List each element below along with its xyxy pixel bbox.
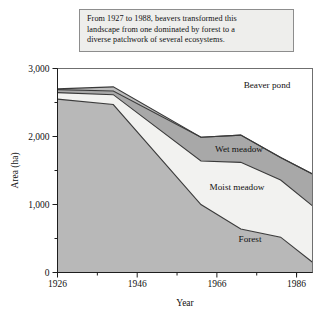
- y-tick-label-0: 0: [45, 268, 50, 278]
- x-tick-label-1986: 1986: [287, 279, 306, 289]
- y-tick-label-2000: 2,000: [28, 132, 50, 142]
- y-tick-labels: 01,0002,0003,000: [28, 64, 50, 278]
- band-label-forest: Forest: [239, 234, 262, 244]
- x-axis-title: Year: [176, 298, 194, 308]
- band-label-beaver-pond: Beaver pond: [244, 80, 291, 90]
- band-label-moist-meadow: Moist meadow: [210, 182, 265, 192]
- x-tick-label-1946: 1946: [128, 279, 147, 289]
- x-tick-label-1966: 1966: [207, 279, 226, 289]
- band-label-wet-meadow: Wet meadow: [215, 144, 263, 154]
- y-tick-label-1000: 1,000: [28, 200, 50, 210]
- area-bands: [58, 87, 313, 273]
- x-tick-labels: 1926194619661986: [48, 279, 306, 289]
- x-tick-label-1926: 1926: [48, 279, 67, 289]
- y-tick-label-3000: 3,000: [28, 64, 50, 74]
- stacked-area-chart: 01,0002,0003,000 1926194619661986 Beaver…: [0, 0, 332, 322]
- figure-container: From 1927 to 1988, beavers transformed t…: [0, 0, 332, 322]
- y-axis-title: Area (ha): [10, 152, 21, 188]
